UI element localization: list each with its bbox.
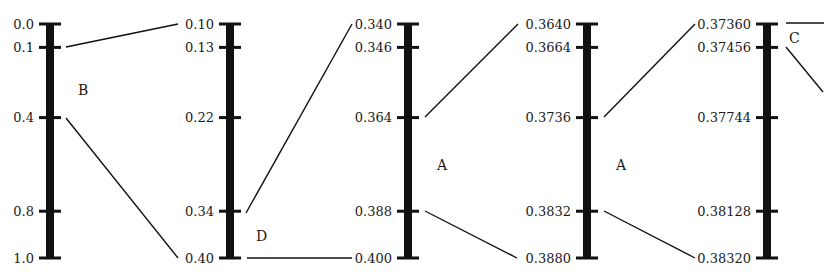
tick-mark xyxy=(756,257,778,260)
tick-label: 0.38320 xyxy=(697,251,751,266)
tick-mark xyxy=(397,116,419,119)
connector-line xyxy=(246,24,352,213)
axis-bar xyxy=(404,24,412,258)
tick-label: 0.34 xyxy=(185,204,214,219)
symbol-label: D xyxy=(256,228,267,244)
tick-label: 0.13 xyxy=(185,40,214,55)
tick-mark xyxy=(756,210,778,213)
number-line: 0.100.130.220.340.40D xyxy=(185,17,267,266)
tick-mark xyxy=(576,116,598,119)
tick-mark xyxy=(397,23,419,26)
tick-label: 1.0 xyxy=(13,251,34,266)
tick-label: 0.3880 xyxy=(526,251,572,266)
axis-bar xyxy=(583,24,591,258)
tick-label: 0.364 xyxy=(355,110,392,125)
tick-label: 0.3832 xyxy=(526,204,572,219)
symbol-label: A xyxy=(615,157,627,173)
tick-label: 0.3640 xyxy=(526,17,572,32)
tick-label: 0.3736 xyxy=(526,110,572,125)
tick-label: 0.0 xyxy=(13,17,34,32)
tick-label: 0.22 xyxy=(185,110,214,125)
tick-mark xyxy=(576,23,598,26)
tick-label: 0.10 xyxy=(185,17,214,32)
tick-mark xyxy=(219,23,241,26)
tick-mark xyxy=(576,46,598,49)
number-line: 0.00.10.40.81.0B xyxy=(13,17,88,266)
tick-mark xyxy=(576,257,598,260)
axis-bar xyxy=(763,24,771,258)
connector-line xyxy=(604,24,695,117)
number-line: 0.36400.36640.37360.38320.3880A xyxy=(526,17,628,266)
tick-label: 0.388 xyxy=(355,204,392,219)
symbol-label: B xyxy=(78,82,88,98)
interval-diagram: 0.00.10.40.81.0B0.100.130.220.340.40D0.3… xyxy=(0,0,836,279)
tick-label: 0.3664 xyxy=(526,40,572,55)
tick-label: 0.4 xyxy=(13,110,34,125)
tick-mark xyxy=(219,116,241,119)
tick-label: 0.37744 xyxy=(697,110,751,125)
number-line: 0.373600.374560.377440.381280.38320C xyxy=(697,17,799,266)
tick-mark xyxy=(397,257,419,260)
symbol-label: C xyxy=(789,30,800,46)
connector-line xyxy=(66,118,178,258)
tick-label: 0.37456 xyxy=(697,40,751,55)
tick-mark xyxy=(39,257,61,260)
connector-line xyxy=(786,47,823,92)
tick-mark xyxy=(219,257,241,260)
tick-label: 0.37360 xyxy=(697,17,751,32)
connector-line xyxy=(425,24,518,117)
tick-mark xyxy=(397,210,419,213)
tick-mark xyxy=(39,46,61,49)
tick-mark xyxy=(576,210,598,213)
number-lines: 0.00.10.40.81.0B0.100.130.220.340.40D0.3… xyxy=(13,17,799,266)
number-line: 0.3400.3460.3640.3880.400A xyxy=(355,17,448,266)
connector-line xyxy=(66,24,178,47)
tick-mark xyxy=(39,210,61,213)
tick-label: 0.40 xyxy=(185,251,214,266)
tick-mark xyxy=(39,23,61,26)
tick-mark xyxy=(756,23,778,26)
tick-label: 0.38128 xyxy=(697,204,751,219)
tick-label: 0.1 xyxy=(13,40,34,55)
diagram-canvas: 0.00.10.40.81.0B0.100.130.220.340.40D0.3… xyxy=(0,0,836,279)
tick-mark xyxy=(756,46,778,49)
tick-mark xyxy=(219,46,241,49)
tick-mark xyxy=(39,116,61,119)
tick-label: 0.340 xyxy=(355,17,392,32)
connector-line xyxy=(604,211,695,258)
connector-line xyxy=(425,211,517,258)
axis-bar xyxy=(226,24,234,258)
axis-bar xyxy=(46,24,54,258)
tick-label: 0.400 xyxy=(355,251,392,266)
tick-label: 0.8 xyxy=(13,204,34,219)
tick-mark xyxy=(756,116,778,119)
connector-lines xyxy=(66,23,824,258)
tick-label: 0.346 xyxy=(355,40,392,55)
tick-mark xyxy=(219,210,241,213)
symbol-label: A xyxy=(436,157,448,173)
tick-mark xyxy=(397,46,419,49)
